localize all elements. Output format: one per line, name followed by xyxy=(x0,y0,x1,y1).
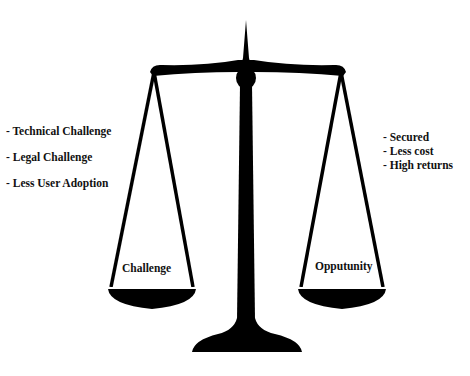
left-pan-bowl xyxy=(108,289,196,309)
scale-column xyxy=(237,84,255,320)
balance-scale-diagram: - Technical Challenge - Legal Challenge … xyxy=(0,0,470,376)
right-pan xyxy=(298,72,386,309)
right-pan-label: Opputunity xyxy=(315,260,373,272)
scale-base xyxy=(192,318,302,352)
right-pan-bowl xyxy=(298,289,386,309)
challenge-item: - Legal Challenge xyxy=(6,150,111,176)
left-pan-label: Challenge xyxy=(122,262,171,274)
opportunity-item: - Secured xyxy=(383,130,453,144)
opportunity-item: - Less cost xyxy=(383,144,453,158)
challenge-item: - Technical Challenge xyxy=(6,124,111,150)
opportunity-list: - Secured - Less cost - High returns xyxy=(383,130,453,172)
opportunity-item: - High returns xyxy=(383,158,453,172)
scale-top-spike xyxy=(241,20,251,66)
challenge-item: - Less User Adoption xyxy=(6,176,111,202)
challenge-list: - Technical Challenge - Legal Challenge … xyxy=(6,124,111,202)
